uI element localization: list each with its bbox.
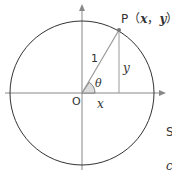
cut-off-text-2: c xyxy=(166,160,172,171)
radius-label: 1 xyxy=(91,53,98,64)
cut-off-text-1: S xyxy=(166,126,172,138)
angle-theta-arc xyxy=(82,82,95,93)
x-axis-arrow-icon xyxy=(159,90,166,96)
y-axis-arrow-icon xyxy=(79,4,85,11)
origin-label: O xyxy=(72,96,81,107)
point-p xyxy=(117,28,121,32)
y-segment-label: y xyxy=(123,62,130,74)
x-segment-label: x xyxy=(97,98,104,110)
point-p-label: P（x，y） xyxy=(121,13,172,25)
angle-theta-label: θ xyxy=(95,78,102,89)
